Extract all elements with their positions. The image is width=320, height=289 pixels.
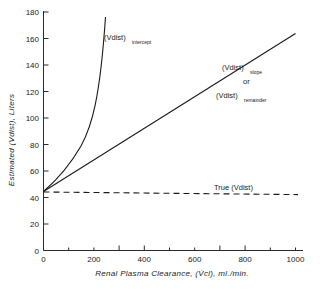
y-tick-label: 80 [30,141,39,150]
annotation-intercept-text: (Vdist) [104,33,126,42]
y-tick-label: 100 [26,114,40,123]
y-tick-label: 120 [26,88,40,97]
y-tick-labels: 0 20 40 60 80 100 120 140 160 180 [26,8,40,256]
series-line-intercept [44,17,106,192]
annotation-intercept: (Vdist) intercept [104,33,152,45]
y-tick-label: 60 [30,167,39,176]
annotation-remainder-subscript: remainder [244,97,267,103]
series-line-true [44,192,299,195]
y-tick-label: 0 [35,247,40,256]
annotation-slope: (Vdist) slope or (Vdist) remainder [216,63,267,103]
series-line-slope-remainder [44,34,296,192]
y-tick-label: 140 [26,61,40,70]
annotation-slope-subscript: slope [250,69,262,75]
x-tick-label: 400 [138,255,152,264]
y-tick-label: 20 [30,220,39,229]
annotation-remainder-text: (Vdist) [216,91,238,100]
y-tick-label: 180 [26,8,40,17]
x-tick-label: 600 [188,255,202,264]
axes-group [44,11,304,251]
annotation-slope-text: (Vdist) [222,63,244,72]
annotation-slope-conjunction: or [243,77,250,86]
x-tick-label: 1000 [287,255,305,264]
annotation-intercept-subscript: intercept [132,39,152,45]
x-tick-label: 0 [41,255,46,264]
x-tick-group [44,246,296,251]
annotation-true-vdist: True (Vdist) [214,183,253,192]
chart-figure: 0 20 40 60 80 100 120 140 160 180 [0,0,320,289]
y-tick-label: 40 [30,194,39,203]
x-axis-title: Renal Plasma Clearance, (V̇cl), ml./min. [95,269,249,278]
x-tick-labels: 0 200 400 600 800 1000 [41,255,305,264]
y-tick-label: 160 [26,35,40,44]
x-tick-label: 800 [238,255,252,264]
y-tick-group [44,12,49,251]
y-axis-title: Estimated (Vdist), Liters [7,94,16,186]
x-tick-label: 200 [87,255,101,264]
chart-canvas: 0 20 40 60 80 100 120 140 160 180 [0,0,320,289]
